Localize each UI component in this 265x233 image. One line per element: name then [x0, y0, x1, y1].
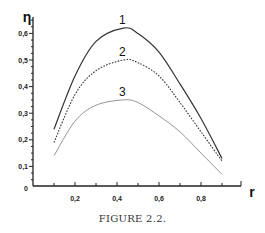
x-tick-label: 0,8 — [196, 195, 206, 203]
y-tick-label: 0,1 — [18, 163, 28, 171]
x-axis-title: r — [249, 184, 255, 200]
x-tick-label: 0,4 — [112, 195, 122, 203]
series-group — [54, 28, 222, 175]
y-tick-label: 0,6 — [18, 30, 28, 38]
line-chart: 0,20,40,60,80,10,20,30,40,50,60ηr123 — [0, 0, 265, 212]
x-tick-label: 0,2 — [70, 195, 80, 203]
curve-label-1: 1 — [119, 13, 126, 27]
labels-group: 0,20,40,60,80,10,20,30,40,50,60ηr123 — [18, 9, 255, 203]
figure-caption: FIGURE 2.2. — [0, 213, 265, 224]
curve-1 — [54, 28, 222, 159]
y-tick-label: 0,5 — [18, 57, 28, 65]
y-tick-label: 0,3 — [18, 110, 28, 118]
curve-label-3: 3 — [119, 85, 126, 99]
y-tick-label: 0,2 — [18, 136, 28, 144]
x-tick-label: 0,6 — [154, 195, 164, 203]
y-axis-title: η — [23, 9, 32, 25]
origin-label: 0 — [24, 185, 28, 192]
curve-label-2: 2 — [119, 45, 126, 59]
y-tick-label: 0,4 — [18, 83, 28, 91]
